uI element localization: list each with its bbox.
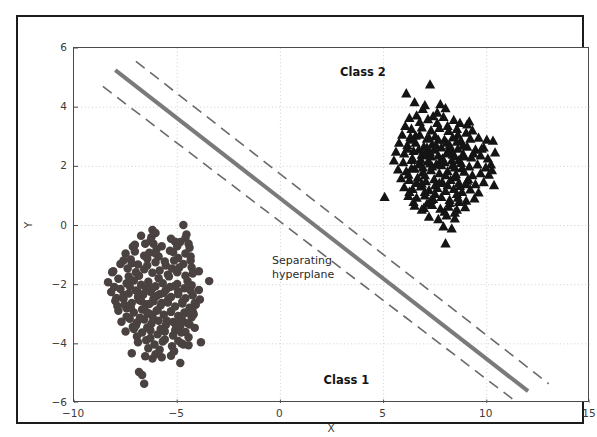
series-class-1: [104, 221, 214, 388]
x-tick-label: −10: [62, 407, 84, 419]
y-tick-label: 2: [41, 159, 67, 171]
y-tick-label: −2: [41, 278, 67, 290]
x-tick-label: 15: [582, 407, 595, 419]
x-tick-label: 0: [276, 407, 283, 419]
scatter-plot-canvas: [74, 48, 590, 403]
annotation-class-1: Class 1: [324, 373, 370, 387]
y-tick-label: 6: [41, 41, 67, 53]
x-axis-label: X: [327, 422, 334, 434]
x-tick-label: 5: [379, 407, 386, 419]
annotation-separating-hyperplane: Separating hyperplane: [272, 254, 334, 282]
y-tick-label: −4: [41, 337, 67, 349]
y-tick-label: 0: [41, 219, 67, 231]
y-tick-label: −6: [41, 396, 67, 408]
y-tick-label: 4: [41, 100, 67, 112]
plot-area: Class 2Class 1Separating hyperplane: [73, 47, 589, 402]
data-points: [104, 79, 500, 388]
figure-frame: Class 2Class 1Separating hyperplane −10−…: [16, 15, 584, 424]
x-tick-label: −5: [168, 407, 183, 419]
y-axis-label: Y: [22, 221, 34, 227]
x-tick-label: 10: [479, 407, 492, 419]
annotation-class-2: Class 2: [340, 65, 386, 79]
series-class-2: [379, 79, 500, 247]
